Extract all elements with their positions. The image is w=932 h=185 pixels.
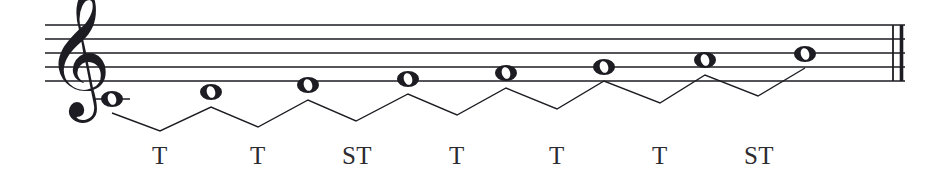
note-head-3 <box>297 77 319 93</box>
note-head-6 <box>593 59 615 75</box>
interval-zigzag-line <box>112 68 805 131</box>
interval-label-2: T <box>250 142 266 170</box>
interval-label-3: ST <box>342 142 372 170</box>
zigzag-polyline <box>112 68 805 131</box>
interval-label-7: ST <box>744 142 774 170</box>
note-head-8 <box>794 46 816 62</box>
note-head-7 <box>694 52 716 68</box>
treble-clef-icon: 𝄞 <box>45 0 111 123</box>
staff-notation-canvas: 𝄞 <box>0 0 932 185</box>
staff-lines-group <box>45 25 905 81</box>
interval-label-4: T <box>449 142 465 170</box>
note-head-5 <box>495 65 517 81</box>
note-head-4 <box>397 71 419 87</box>
interval-label-1: T <box>152 142 168 170</box>
interval-label-5: T <box>549 142 565 170</box>
note-head-2 <box>200 84 222 100</box>
interval-label-6: T <box>652 142 668 170</box>
note-head-1 <box>101 91 123 107</box>
music-notation-figure: 𝄞 TTSTTTTST <box>0 0 932 185</box>
treble-clef-glyph: 𝄞 <box>45 0 111 123</box>
